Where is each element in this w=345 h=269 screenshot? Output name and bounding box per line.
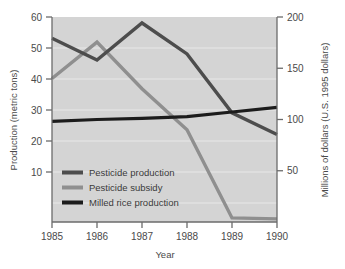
x-tick-label: 1985	[41, 231, 64, 242]
legend-label-milled-rice-production: Milled rice production	[89, 197, 179, 208]
x-tick-label: 1986	[86, 231, 109, 242]
right-tick-label: 200	[287, 12, 304, 23]
left-tick-label: 10	[31, 167, 43, 178]
x-tick-label: 1988	[176, 231, 199, 242]
right-tick-label: 150	[287, 63, 304, 74]
left-tick-label: 20	[31, 136, 43, 147]
legend-label-pesticide-production: Pesticide production	[89, 167, 175, 178]
left-tick-label: 60	[31, 12, 43, 23]
x-tick-label: 1990	[266, 231, 289, 242]
y-axis-title: Production (metric tons)	[8, 70, 19, 171]
legend-label-pesticide-subsidy: Pesticide subsidy	[89, 182, 163, 193]
line-chart-figure: 60 50 40 30 20 10 200 150 100 50 1985 19…	[0, 0, 345, 269]
right-tick-label: 50	[287, 165, 299, 176]
right-tick-label: 100	[287, 114, 304, 125]
legend: Pesticide production Pesticide subsidy M…	[62, 167, 179, 208]
y2-axis-title: Millions of dollars (U.S. 1995 dollars)	[319, 43, 330, 198]
x-tick-label: 1987	[131, 231, 154, 242]
left-tick-label: 50	[31, 43, 43, 54]
legend-swatch-pesticide-production	[62, 171, 83, 175]
x-axis-title: Year	[155, 249, 174, 260]
left-tick-label: 40	[31, 74, 43, 85]
legend-swatch-pesticide-subsidy	[62, 186, 83, 190]
x-tick-label: 1989	[221, 231, 244, 242]
legend-swatch-milled-rice-production	[62, 201, 83, 205]
left-tick-label: 30	[31, 105, 43, 116]
